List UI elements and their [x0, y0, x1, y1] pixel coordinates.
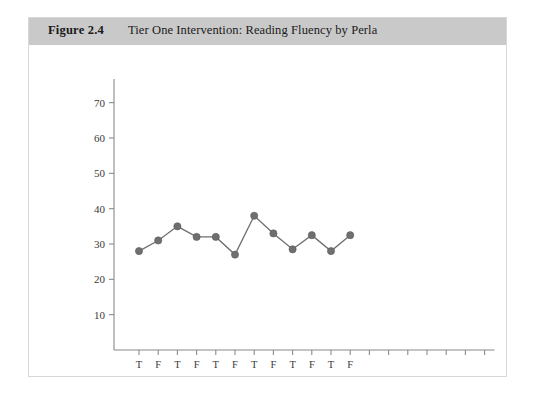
- data-point-marker: [327, 247, 334, 254]
- data-series-reading-fluency: [135, 212, 353, 258]
- x-tick-label: T: [213, 359, 220, 370]
- y-tick-label: 40: [94, 203, 106, 215]
- data-point-marker: [231, 251, 238, 258]
- y-tick-label: 20: [94, 273, 106, 285]
- y-tick-label: 30: [94, 238, 106, 250]
- x-tick-label: F: [194, 359, 200, 370]
- figure-title-label: Tier One Intervention: Reading Fluency b…: [128, 23, 377, 38]
- x-tick-label: F: [232, 359, 238, 370]
- data-point-marker: [251, 212, 258, 219]
- data-point-marker: [308, 232, 315, 239]
- data-point-marker: [212, 233, 219, 240]
- data-point-marker: [135, 247, 142, 254]
- x-tick-label: F: [309, 359, 315, 370]
- data-point-marker: [155, 237, 162, 244]
- figure-header-band: Figure 2.4 Tier One Intervention: Readin…: [29, 18, 506, 45]
- x-tick-label: T: [251, 359, 258, 370]
- series-polyline: [139, 216, 350, 255]
- y-tick-label: 50: [94, 167, 106, 179]
- y-axis: 10203040506070: [94, 79, 114, 350]
- figure-card: Figure 2.4 Tier One Intervention: Readin…: [28, 17, 507, 377]
- x-axis: TFTFTFTFTFTF: [114, 350, 495, 370]
- x-tick-label: T: [289, 359, 296, 370]
- data-point-marker: [174, 223, 181, 230]
- data-point-marker: [270, 230, 277, 237]
- x-tick-label: T: [328, 359, 335, 370]
- x-tick-label: F: [347, 359, 353, 370]
- x-tick-label: F: [155, 359, 161, 370]
- y-tick-label: 10: [94, 309, 106, 321]
- line-chart: 10203040506070 TFTFTFTFTFTF: [29, 45, 506, 377]
- data-point-marker: [347, 232, 354, 239]
- x-tick-label: F: [270, 359, 276, 370]
- y-tick-label: 70: [94, 97, 106, 109]
- x-tick-label: T: [136, 359, 143, 370]
- x-tick-label: T: [174, 359, 181, 370]
- figure-number-label: Figure 2.4: [48, 23, 104, 38]
- chart-plot-area: 10203040506070 TFTFTFTFTFTF: [29, 45, 506, 378]
- data-point-marker: [193, 233, 200, 240]
- y-tick-label: 60: [94, 132, 106, 144]
- data-point-marker: [289, 246, 296, 253]
